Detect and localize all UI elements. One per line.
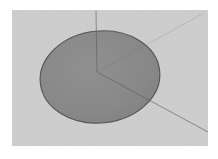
figure-canvas [0,0,218,159]
figure-root [0,0,218,159]
panel-grain-overlay [12,10,208,146]
